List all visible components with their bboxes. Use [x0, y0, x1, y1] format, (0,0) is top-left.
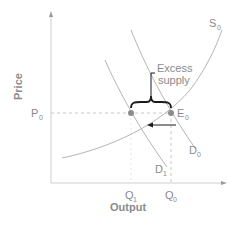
axes: [49, 11, 227, 185]
y-axis-arrow-icon: [49, 11, 53, 17]
price-tick-label: P 0: [31, 107, 43, 121]
demand-curve-d0: [131, 30, 195, 148]
demand-d0-label: D 0: [189, 144, 201, 158]
y-axis-label: Price: [12, 73, 24, 100]
annotation-line1: Excess: [157, 62, 193, 74]
supply-label: S 0: [209, 17, 221, 31]
equilibrium-point: [168, 110, 174, 116]
x-axis-arrow-icon: [221, 181, 227, 185]
svg-text:1: 1: [133, 196, 137, 203]
svg-text:D: D: [189, 144, 197, 156]
new-quantity-point: [128, 110, 134, 116]
svg-text:0: 0: [173, 196, 177, 203]
q1-tick-label: Q 1: [125, 189, 137, 203]
excess-supply-bracket: [131, 96, 171, 108]
x-axis-label: Output: [110, 201, 146, 213]
svg-text:0: 0: [185, 114, 189, 121]
svg-text:0: 0: [39, 114, 43, 121]
svg-text:0: 0: [217, 24, 221, 31]
supply-curve: [62, 30, 222, 158]
svg-text:S: S: [209, 17, 216, 29]
svg-text:0: 0: [197, 151, 201, 158]
svg-text:P: P: [31, 107, 38, 119]
annotation-line2: supply: [158, 74, 190, 86]
supply-demand-diagram: Excess supply Price Output S 0 D 0 D 1 E…: [0, 0, 237, 234]
equilibrium-label: E 0: [177, 107, 189, 121]
q0-tick-label: Q 0: [165, 189, 177, 203]
svg-text:1: 1: [163, 170, 167, 177]
svg-text:D: D: [155, 163, 163, 175]
svg-text:E: E: [177, 107, 184, 119]
